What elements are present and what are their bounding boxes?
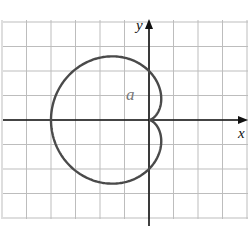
x-axis-label: x: [237, 125, 245, 141]
cardioid-plot: x y a: [0, 0, 250, 234]
y-axis-label: y: [134, 17, 143, 33]
y-axis-arrow-icon: [145, 19, 153, 29]
param-a-label: a: [126, 85, 135, 104]
